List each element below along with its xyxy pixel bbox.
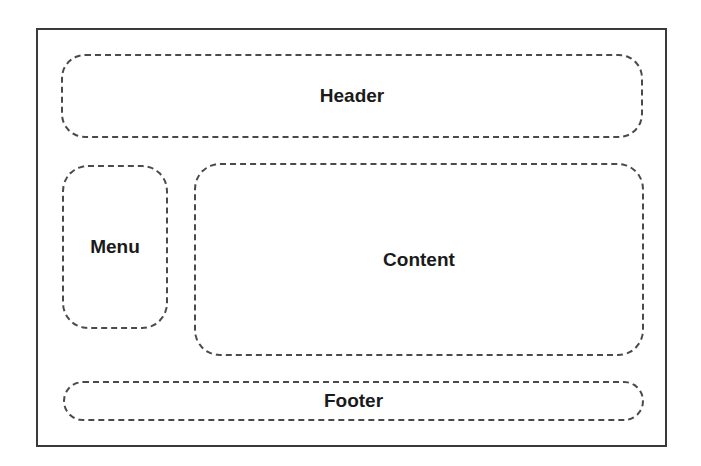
- menu-label: Menu: [90, 236, 140, 258]
- footer-label: Footer: [324, 390, 383, 412]
- header-label: Header: [320, 85, 384, 107]
- menu-region: Menu: [62, 165, 168, 329]
- header-region: Header: [61, 54, 643, 138]
- footer-region: Footer: [63, 381, 644, 421]
- content-label: Content: [383, 249, 455, 271]
- content-region: Content: [194, 163, 644, 356]
